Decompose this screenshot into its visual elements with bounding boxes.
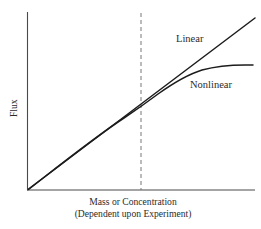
series-label-nonlinear: Nonlinear	[190, 79, 232, 90]
chart-canvas: Linear Nonlinear Flux Mass or Concentrat…	[0, 0, 261, 229]
x-axis-title-line2: (Dependent upon Experiment)	[75, 208, 192, 220]
y-axis-title: Flux	[8, 99, 19, 117]
flux-vs-mass-chart: Linear Nonlinear Flux Mass or Concentrat…	[0, 0, 261, 229]
x-axis-title-line1: Mass or Concentration	[89, 196, 177, 207]
series-label-linear: Linear	[176, 33, 204, 44]
